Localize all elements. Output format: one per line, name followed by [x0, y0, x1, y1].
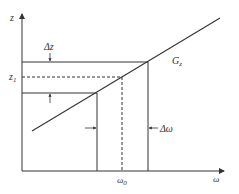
delta-omega-label: Δω	[159, 123, 173, 134]
z1-label: z1	[8, 71, 16, 84]
x-axis-label: ω	[213, 174, 219, 184]
omega0-label: ω0	[117, 175, 127, 187]
diagram-canvas: z ω Δz z1 Gz Δω ω0	[0, 0, 239, 194]
gain-line	[32, 18, 220, 131]
gain-label: Gz	[172, 55, 182, 68]
y-axis-label: z	[9, 12, 14, 23]
delta-z-label: Δz	[43, 41, 54, 52]
